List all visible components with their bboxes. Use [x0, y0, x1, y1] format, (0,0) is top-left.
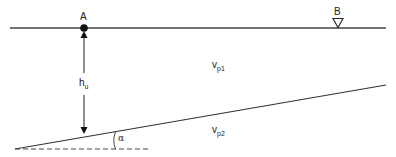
depth-label: hu — [79, 77, 89, 90]
point-b-label: B — [334, 6, 341, 17]
upper-layer-velocity-label: vp1 — [212, 59, 225, 73]
dipping-interface-line — [15, 85, 386, 149]
point-a-label: A — [80, 11, 87, 22]
angle-arc — [114, 132, 116, 149]
arrowhead-down-icon — [81, 127, 88, 134]
angle-alpha-label: α — [118, 133, 124, 143]
refraction-diagram: A B hu α vp1 vp2 — [0, 0, 396, 157]
lower-layer-velocity-label: vp2 — [212, 124, 225, 138]
point-b-triangle-icon — [333, 19, 343, 28]
point-a-marker — [80, 24, 88, 32]
arrowhead-up-icon — [81, 31, 88, 38]
